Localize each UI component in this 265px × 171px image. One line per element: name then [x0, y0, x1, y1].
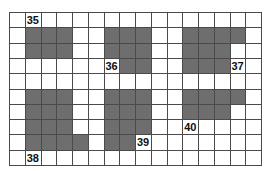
grid-cell [215, 13, 231, 28]
grid-cell [89, 74, 105, 89]
grid-cell [231, 74, 247, 89]
grid-cell [136, 151, 152, 166]
grid-cell [89, 135, 105, 150]
grid-cell: 35 [26, 13, 42, 28]
grid-cell [73, 59, 89, 74]
grid-cell [57, 59, 73, 74]
grid-cell-shaded [215, 44, 231, 59]
grid-cell [57, 151, 73, 166]
grid-cell [73, 44, 89, 59]
grid-cell-shaded [42, 90, 58, 105]
grid-cell [246, 59, 262, 74]
cell-number-label: 40 [184, 121, 196, 133]
grid-cell [105, 13, 121, 28]
grid-cell [10, 105, 26, 120]
grid-cell [246, 120, 262, 135]
grid-cell-shaded [199, 90, 215, 105]
grid-cell-shaded [26, 28, 42, 43]
grid-cell [73, 151, 89, 166]
grid-cell [215, 151, 231, 166]
grid-cell-shaded [42, 135, 58, 150]
grid-cell [168, 120, 184, 135]
grid-cell-shaded [183, 28, 199, 43]
grid-cell [199, 135, 215, 150]
grid-cell [246, 74, 262, 89]
grid-cell-shaded [215, 105, 231, 120]
grid-cell-shaded [120, 120, 136, 135]
grid-cell [89, 120, 105, 135]
crossword-grid: 353637403938 [9, 12, 262, 166]
grid-cell-shaded [136, 90, 152, 105]
grid-cell [89, 151, 105, 166]
grid-cell [231, 151, 247, 166]
grid-cell [215, 120, 231, 135]
grid-cell [246, 105, 262, 120]
grid-cell-shaded [120, 90, 136, 105]
grid-cell-shaded [57, 120, 73, 135]
grid-cell [168, 90, 184, 105]
grid-cell [10, 59, 26, 74]
cell-number-label: 35 [27, 14, 39, 26]
grid-cell-shaded [199, 28, 215, 43]
grid-cell [73, 13, 89, 28]
grid-cell-shaded [136, 120, 152, 135]
grid-cell [42, 13, 58, 28]
grid-cell [199, 120, 215, 135]
grid-cell-shaded [26, 90, 42, 105]
grid-cell-shaded [42, 28, 58, 43]
grid-cell [89, 13, 105, 28]
grid-cell-shaded [183, 105, 199, 120]
grid-cell [183, 151, 199, 166]
grid-cell [120, 151, 136, 166]
grid-cell [183, 135, 199, 150]
grid-cell-shaded [215, 28, 231, 43]
grid-cell [231, 13, 247, 28]
grid-cell [10, 28, 26, 43]
grid-cell [168, 28, 184, 43]
grid-cell-shaded [199, 44, 215, 59]
grid-cell [152, 120, 168, 135]
grid-cell-shaded [26, 44, 42, 59]
grid-cell [231, 105, 247, 120]
grid-cell [246, 90, 262, 105]
grid-cell [10, 120, 26, 135]
grid-cell: 39 [136, 135, 152, 150]
grid-cell-shaded [105, 135, 121, 150]
grid-cell [168, 74, 184, 89]
grid-cell [168, 13, 184, 28]
grid-cell [10, 90, 26, 105]
grid-cell-shaded [136, 44, 152, 59]
grid-cell [73, 74, 89, 89]
grid-cell-shaded [231, 28, 247, 43]
grid-cell-shaded [215, 59, 231, 74]
grid-cell [168, 151, 184, 166]
grid-cell [199, 74, 215, 89]
grid-cell-shaded [26, 135, 42, 150]
grid-cell-shaded [136, 59, 152, 74]
grid-cell-shaded [57, 135, 73, 150]
cell-number-label: 39 [137, 136, 149, 148]
grid-cell-shaded [105, 105, 121, 120]
grid-cell [26, 74, 42, 89]
grid-cell [10, 74, 26, 89]
grid-cell-shaded [199, 105, 215, 120]
grid-cell [168, 44, 184, 59]
grid-cell [168, 135, 184, 150]
grid-cell [246, 13, 262, 28]
grid-cell [73, 105, 89, 120]
cell-number-label: 37 [232, 60, 244, 72]
grid-cell [120, 13, 136, 28]
grid-cell [168, 59, 184, 74]
grid-cell [57, 13, 73, 28]
grid-cell [73, 120, 89, 135]
grid-cell [246, 135, 262, 150]
grid-cell: 36 [105, 59, 121, 74]
grid-cell [42, 74, 58, 89]
grid-cell-shaded [105, 28, 121, 43]
grid-cell [105, 151, 121, 166]
grid-cell [136, 74, 152, 89]
grid-cell [120, 74, 136, 89]
grid-cell [10, 13, 26, 28]
grid-cell-shaded [215, 90, 231, 105]
grid-cell [246, 44, 262, 59]
